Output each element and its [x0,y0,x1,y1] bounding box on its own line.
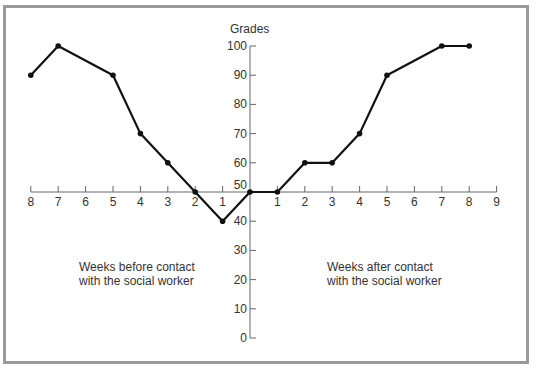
after-contact-note: Weeks after contact with the social work… [327,260,442,288]
data-point [55,43,61,49]
y-tick-label: 100 [217,39,247,53]
data-point [466,43,472,49]
data-point [138,131,144,137]
y-tick-label: 10 [217,302,247,316]
data-point [165,160,171,166]
x-tick-label: 3 [322,195,342,209]
before-contact-note: Weeks before contact with the social wor… [79,260,195,288]
y-tick-label: 50 [217,178,247,192]
x-tick-label: 1 [213,195,233,209]
y-tick-label: 40 [217,214,247,228]
data-point [28,72,34,78]
x-tick-label: 6 [404,195,424,209]
x-tick-label: 5 [377,195,397,209]
y-tick-label: 60 [217,156,247,170]
data-point [247,189,253,195]
y-tick-label: 80 [217,97,247,111]
x-tick-label: 4 [350,195,370,209]
x-tick-label: 4 [130,195,150,209]
y-tick-label: 70 [217,127,247,141]
y-tick-label: 20 [217,273,247,287]
data-point [439,43,445,49]
x-tick-label: 6 [76,195,96,209]
x-tick-label: 1 [267,195,287,209]
data-point [110,72,116,78]
x-tick-label: 2 [185,195,205,209]
x-tick-label: 8 [459,195,479,209]
x-tick-label: 7 [48,195,68,209]
y-tick-label: 30 [217,243,247,257]
x-tick-label: 3 [158,195,178,209]
x-tick-label: 7 [432,195,452,209]
data-point [329,160,335,166]
y-axis-title: Grades [230,22,269,36]
y-tick-label: 90 [217,68,247,82]
data-point [357,131,363,137]
x-tick-label: 5 [103,195,123,209]
x-tick-label: 2 [295,195,315,209]
data-point [302,160,308,166]
data-point [384,72,390,78]
x-tick-label: 9 [487,195,507,209]
y-tick-label: 0 [217,331,247,345]
line-chart [0,0,536,368]
x-tick-label: 8 [21,195,41,209]
data-point [275,189,281,195]
data-point [192,189,198,195]
